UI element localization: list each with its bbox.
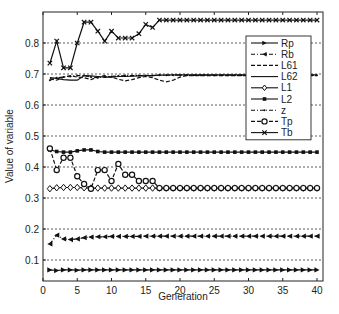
data-point xyxy=(75,174,80,179)
data-point xyxy=(273,185,278,190)
data-point xyxy=(172,74,174,76)
data-point xyxy=(164,267,169,272)
data-point xyxy=(152,75,154,77)
data-point xyxy=(232,185,237,190)
data-point xyxy=(143,267,148,272)
data-point xyxy=(143,234,148,239)
data-point xyxy=(143,185,148,191)
legend-label: L1 xyxy=(281,82,293,93)
data-point xyxy=(49,79,51,81)
data-point xyxy=(280,234,285,239)
data-point xyxy=(47,186,52,192)
data-point xyxy=(246,234,251,239)
data-point xyxy=(280,185,285,190)
data-point xyxy=(212,150,216,154)
x-tick-label: 40 xyxy=(311,285,323,296)
x-tick-label: 30 xyxy=(243,285,255,296)
data-point xyxy=(116,161,121,166)
data-point xyxy=(266,267,271,272)
data-point xyxy=(54,233,59,238)
data-point xyxy=(273,267,278,272)
data-point xyxy=(234,74,236,76)
data-point xyxy=(263,97,267,101)
data-point xyxy=(68,155,73,160)
data-point xyxy=(82,148,86,152)
data-point xyxy=(171,185,176,190)
data-point xyxy=(124,75,126,77)
data-point xyxy=(47,241,52,246)
data-point xyxy=(308,267,313,272)
data-point xyxy=(54,268,59,273)
y-tick-label: 0.1 xyxy=(25,255,39,266)
data-point xyxy=(103,150,107,154)
data-point xyxy=(90,76,92,78)
data-point xyxy=(226,150,230,154)
data-point xyxy=(225,185,230,190)
data-point xyxy=(316,74,318,76)
data-point xyxy=(104,76,106,78)
data-point xyxy=(117,150,121,154)
data-point xyxy=(314,267,319,272)
data-point xyxy=(95,267,100,272)
data-point xyxy=(109,178,114,183)
data-point xyxy=(266,185,271,190)
data-point xyxy=(75,184,80,190)
data-point xyxy=(184,267,189,272)
data-point xyxy=(123,150,127,154)
data-point xyxy=(199,150,203,154)
data-point xyxy=(253,185,258,190)
data-point xyxy=(246,267,251,272)
data-point xyxy=(54,168,59,173)
data-point xyxy=(88,234,93,239)
data-point xyxy=(68,184,73,190)
data-point xyxy=(171,234,176,239)
data-point xyxy=(314,185,319,190)
data-point xyxy=(239,267,244,272)
data-point xyxy=(280,267,285,272)
data-point xyxy=(63,76,65,78)
y-axis-label: Value of variable xyxy=(4,109,15,183)
data-point xyxy=(273,234,278,239)
data-point xyxy=(308,150,312,154)
data-point xyxy=(164,185,169,190)
data-point xyxy=(184,185,189,190)
data-point xyxy=(150,25,154,29)
data-point xyxy=(246,185,251,190)
data-point xyxy=(184,234,189,239)
data-point xyxy=(225,234,230,239)
data-point xyxy=(287,234,292,239)
x-tick-label: 10 xyxy=(106,285,118,296)
data-point xyxy=(102,267,107,272)
data-point xyxy=(129,185,134,191)
data-point xyxy=(178,150,182,154)
data-point xyxy=(109,234,114,239)
data-point xyxy=(205,267,210,272)
data-point xyxy=(177,234,182,239)
data-point xyxy=(177,267,182,272)
data-point xyxy=(150,234,155,239)
data-point xyxy=(110,150,114,154)
legend-label: Rb xyxy=(281,49,294,60)
data-point xyxy=(56,77,58,79)
data-point xyxy=(302,150,306,154)
data-point xyxy=(55,150,59,154)
data-point xyxy=(129,172,134,177)
data-point xyxy=(150,267,155,272)
data-point xyxy=(295,150,299,154)
data-point xyxy=(198,267,203,272)
data-point xyxy=(274,150,278,154)
data-point xyxy=(109,267,114,272)
data-point xyxy=(165,150,169,154)
data-point xyxy=(219,185,224,190)
data-point xyxy=(212,234,217,239)
legend-label: L62 xyxy=(281,71,298,82)
data-point xyxy=(308,185,313,190)
data-point xyxy=(157,234,162,239)
y-tick-label: 0.7 xyxy=(25,69,39,80)
data-point xyxy=(205,185,210,190)
data-point xyxy=(206,74,208,76)
data-point xyxy=(179,74,181,76)
data-point xyxy=(158,150,162,154)
data-point xyxy=(198,234,203,239)
data-point xyxy=(47,267,52,272)
